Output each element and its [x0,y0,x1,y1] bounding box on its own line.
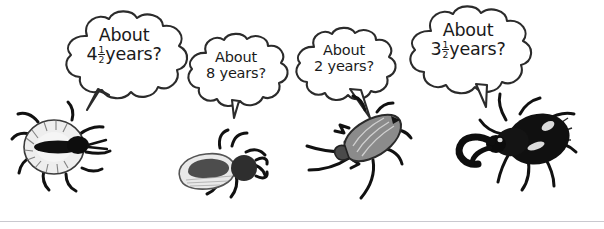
thought-bubble-1: About 412years? [54,8,194,112]
bubble-4-text: About 312years? [406,21,530,60]
bubble-3-line1: About [296,43,392,59]
bubble-4-number: 3 [431,39,442,59]
thought-bubble-4: About 312years? [398,4,538,108]
bubble-4-fraction-numerator: 1 [442,40,450,49]
bubble-2-text: About 8 years? [188,50,284,81]
bubble-4-unit: years? [449,39,505,59]
bubble-4-line2: 312years? [406,40,530,60]
bubble-4-line1: About [406,21,530,40]
bubble-1-fraction: 12 [98,45,106,65]
bug-4-black-pincer-beetle-icon [450,94,580,202]
bubble-1-line2: 412years? [62,45,186,65]
bubble-2-line2: 8 years? [188,66,284,82]
bottom-divider-rule [0,221,604,222]
bubble-1-line1: About [62,26,186,45]
bubble-3-number: 2 [314,58,323,74]
bubble-1-fraction-numerator: 1 [98,45,106,54]
bubble-4-fraction-denominator: 2 [442,50,450,59]
bubble-1-text: About 412years? [62,26,186,65]
bubble-2-number: 8 [206,65,215,81]
bubble-1-unit: years? [105,44,161,64]
thought-bubble-2: About 8 years? [180,31,292,119]
bubble-3-line2: 2 years? [296,59,392,75]
bubble-3-text: About 2 years? [296,43,392,74]
bubble-2-line1: About [188,50,284,66]
bubble-3-unit: years? [328,58,374,74]
bubble-2-unit: years? [220,65,266,81]
bug-1-round-pale-tick-icon [8,100,128,200]
lifespan-guess-illustration: About 412years? About 8 years? About 2 y… [0,0,604,229]
bug-3-long-striped-beetle-icon [305,104,433,208]
bug-2-grey-elytra-beetle-icon [162,128,282,210]
bubble-1-number: 4 [87,44,98,64]
bubble-1-fraction-denominator: 2 [98,55,106,64]
bubble-4-fraction: 12 [442,40,450,60]
